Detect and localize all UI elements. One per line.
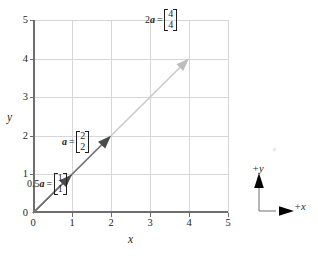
x-axis-title: x [128,233,133,245]
y-axis-title: y [7,111,12,123]
x-tick-1 [72,213,73,217]
annotation-half-a: 0.5 a = 1 1 [27,173,67,195]
y-ticklabel-2: 2 [23,131,28,142]
x-ticklabel-2: 2 [108,218,113,229]
annotation-2a-equals: = [156,15,165,25]
annotation-half-a-component-2: 1 [58,184,63,195]
orientation-key: +y +x [248,165,308,217]
annotation-half-a-scalar: 0.5 [27,179,40,189]
gridline-x-5 [228,20,229,213]
annotation-2a: 2 a = 4 4 [145,9,177,31]
stray-speck [273,148,276,151]
orientation-x-label: +x [294,201,306,212]
annotation-half-a-equals: = [45,179,54,189]
x-ticklabel-0: 0 [30,218,35,229]
annotation-a-equals: = [68,137,77,147]
x-tick-5 [228,213,229,217]
x-tick-3 [150,213,151,217]
y-ticklabel-4: 4 [23,53,28,64]
x-tick-4 [189,213,190,217]
x-ticklabel-5: 5 [225,218,230,229]
annotation-2a-column-vector: 4 4 [164,9,177,31]
up-arrow-icon [254,173,264,188]
y-ticklabel-3: 3 [23,92,28,103]
right-arrow-icon [279,206,294,216]
y-ticklabel-0: 0 [23,208,28,219]
x-ticklabel-1: 1 [69,218,74,229]
x-tick-2 [111,213,112,217]
annotation-a: a = 2 2 [62,131,89,153]
annotation-2a-component-2: 4 [168,20,173,31]
x-ticklabel-3: 3 [147,218,152,229]
orientation-y-label: +y [252,163,264,174]
annotation-half-a-column-vector: 1 1 [54,173,67,195]
annotation-a-column-vector: 2 2 [76,131,89,153]
y-ticklabel-5: 5 [23,15,28,26]
annotation-a-component-2: 2 [80,142,85,153]
x-ticklabel-4: 4 [186,218,191,229]
